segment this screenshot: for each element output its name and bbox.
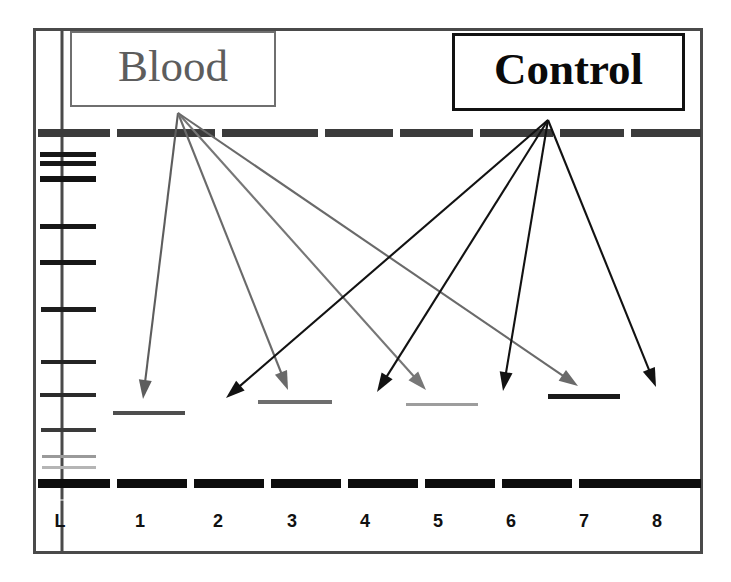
arrow-control-6 [377,120,548,392]
front-segment-5 [425,479,495,488]
well-segment-3 [325,129,393,137]
ladder-band-3 [40,176,96,182]
arrow-shaft [237,120,548,389]
arrow-head [377,372,393,392]
ladder-band-9 [41,428,96,432]
arrow-shaft [178,113,417,380]
lane-label-7: 7 [564,512,604,530]
lane-label-3: 3 [272,512,312,530]
blood-label-text: Blood [118,44,228,94]
front-segment-3 [271,479,341,488]
arrow-head [275,370,288,390]
lane-label-2: 2 [198,512,238,530]
arrow-shaft [505,120,548,377]
front-segment-4 [348,479,418,488]
dye-front-row [38,479,701,488]
sample-band-lane-5 [406,403,478,406]
ladder-band-8 [40,393,96,397]
arrow-shaft [178,113,566,378]
arrow-control-8 [548,120,656,387]
lane-label-8: 8 [637,512,677,530]
well-segment-6 [560,129,624,137]
arrow-shaft [178,113,283,377]
well-segment-1 [117,129,215,137]
well-segment-7 [631,129,701,137]
arrow-head [559,370,578,386]
ladder-band-7 [41,360,96,364]
ladder-band-10 [42,455,96,458]
lane-label-4: 4 [345,512,385,530]
arrow-blood-3 [178,113,426,390]
arrow-control-7 [500,120,548,391]
well-segment-2 [222,129,318,137]
ladder-band-5 [40,260,96,265]
arrow-shaft [145,113,178,385]
arrow-head [139,379,152,399]
sample-bands [113,394,620,415]
well-segment-0 [38,129,110,137]
lane-label-1: 1 [120,512,160,530]
sample-band-lane-1 [113,411,185,415]
arrow-shaft [384,120,548,380]
lane-label-5: 5 [418,512,458,530]
ladder-band-2 [40,161,96,166]
sample-band-lane-7 [548,394,620,399]
well-segment-4 [400,129,473,137]
blood-label-box: Blood [70,31,276,107]
wells-row [38,129,701,137]
arrow-control-5 [226,120,548,398]
gel-figure: Blood Control L12345678 [0,0,731,582]
lane-label-l: L [40,512,80,530]
front-segment-6 [502,479,572,488]
ladder-band-6 [41,307,96,312]
front-segment-8 [640,479,701,488]
annotation-arrows [139,113,656,399]
arrow-head [500,371,513,391]
arrow-head [643,367,656,387]
control-label-text: Control [494,47,643,97]
front-segment-7 [579,479,649,488]
control-label-box: Control [452,33,685,111]
ladder-band-1 [40,152,96,157]
lane-label-6: 6 [491,512,531,530]
arrow-blood-2 [178,113,288,390]
arrow-shaft [548,120,651,374]
front-segment-2 [194,479,264,488]
ladder-bands [40,152,96,469]
arrow-blood-4 [178,113,578,386]
ladder-band-4 [40,224,96,229]
arrow-blood-1 [139,113,178,399]
ladder-band-11 [42,466,96,469]
front-segment-0 [38,479,110,488]
front-segment-1 [117,479,187,488]
sample-band-lane-3 [258,400,332,404]
